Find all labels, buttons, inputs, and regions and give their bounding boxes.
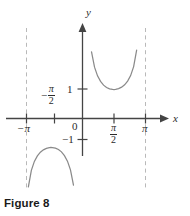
curve-upper-branch <box>92 50 137 89</box>
x-tick-label-neg-half-pi: − π 2 <box>41 84 55 106</box>
half-pi-fraction: π 2 <box>110 123 117 145</box>
x-tick-label-half-pi: π 2 <box>110 123 117 145</box>
neg-half-pi-fraction: π 2 <box>48 84 55 106</box>
x-tick-label-neg-pi: −π <box>17 123 30 134</box>
y-axis-label: y <box>86 7 91 18</box>
neg-half-pi-minus-sign: − <box>41 90 47 101</box>
half-pi-denominator: 2 <box>110 135 117 146</box>
graph-svg <box>0 0 190 192</box>
y-tick-label-one: 1 <box>67 84 73 95</box>
y-tick-label-neg-one: −1 <box>62 134 74 145</box>
x-axis-label: x <box>173 113 178 124</box>
neg-half-pi-denominator: 2 <box>48 96 55 107</box>
half-pi-numerator: π <box>110 123 117 134</box>
figure-caption: Figure 8 <box>4 197 50 209</box>
figure-container: y x 0 1 −1 −π π − π 2 π 2 Figure 8 <box>0 0 190 216</box>
origin-label: 0 <box>72 121 78 132</box>
curve-lower-branch <box>28 148 73 187</box>
neg-half-pi-numerator: π <box>48 84 55 95</box>
graph-plot-area <box>0 0 190 192</box>
x-axis-arrowhead <box>160 115 169 123</box>
y-axis-arrowhead <box>79 23 87 32</box>
x-tick-label-pi: π <box>142 123 148 134</box>
